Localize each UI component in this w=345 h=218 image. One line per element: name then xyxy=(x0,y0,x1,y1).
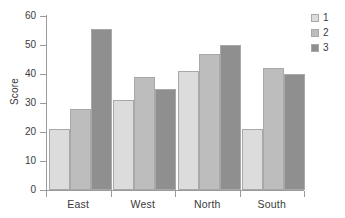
x-tick-label: South xyxy=(237,198,307,210)
y-tick-label: 50 xyxy=(10,40,36,50)
y-tick-label: 40 xyxy=(10,69,36,79)
bar-group xyxy=(178,16,241,190)
bar xyxy=(178,71,199,190)
bar-group xyxy=(242,16,305,190)
x-tick-label: East xyxy=(43,198,113,210)
legend-label: 3 xyxy=(323,43,329,53)
x-tick-mark xyxy=(304,191,305,197)
x-tick-label: West xyxy=(108,198,178,210)
y-tick-label: 20 xyxy=(10,127,36,137)
legend-swatch-icon xyxy=(311,14,319,22)
bar xyxy=(91,29,112,190)
y-tick-label: 30 xyxy=(10,98,36,108)
legend-label: 2 xyxy=(323,28,329,38)
x-tick-mark xyxy=(46,191,47,197)
bar xyxy=(199,54,220,190)
x-tick-mark xyxy=(175,191,176,197)
legend-item: 3 xyxy=(311,43,329,53)
bar xyxy=(263,68,284,190)
bar-group xyxy=(113,16,176,190)
bars-layer xyxy=(46,16,304,190)
bar xyxy=(113,100,134,190)
legend-swatch-icon xyxy=(311,44,319,52)
bar-group xyxy=(49,16,112,190)
x-tick-mark xyxy=(111,191,112,197)
y-tick-label: 10 xyxy=(10,156,36,166)
x-tick-mark xyxy=(240,191,241,197)
y-tick-label: 0 xyxy=(10,185,36,195)
chart-legend: 123 xyxy=(311,13,329,53)
bar xyxy=(155,89,176,191)
legend-item: 1 xyxy=(311,13,329,23)
bar xyxy=(220,45,241,190)
bar-chart: Score 0102030405060 EastWestNorthSouth 1… xyxy=(0,0,345,218)
x-tick-label: North xyxy=(172,198,242,210)
bar xyxy=(134,77,155,190)
bar xyxy=(242,129,263,190)
bar xyxy=(284,74,305,190)
y-tick-label: 60 xyxy=(10,11,36,21)
legend-label: 1 xyxy=(323,13,329,23)
bar xyxy=(70,109,91,190)
legend-item: 2 xyxy=(311,28,329,38)
bar xyxy=(49,129,70,190)
legend-swatch-icon xyxy=(311,29,319,37)
